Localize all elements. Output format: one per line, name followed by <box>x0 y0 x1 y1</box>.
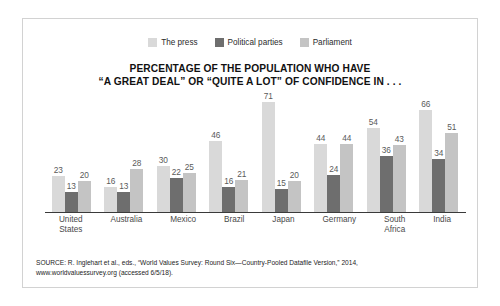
bar-group: 711520 <box>262 96 301 212</box>
bar[interactable] <box>445 133 458 212</box>
bar-slot: 24 <box>327 96 340 212</box>
bar[interactable] <box>65 192 78 212</box>
bar-slot: 44 <box>340 96 353 212</box>
bar-value-label: 16 <box>106 177 115 186</box>
bar-slot: 51 <box>445 96 458 212</box>
bar-slot: 44 <box>314 96 327 212</box>
bar-slot: 13 <box>117 96 130 212</box>
bar[interactable] <box>117 192 130 212</box>
legend-label-the-press: The press <box>161 38 197 47</box>
bar-group: 161328 <box>104 96 143 212</box>
bar-slot: 66 <box>419 96 432 212</box>
x-axis-category-label: Japan <box>272 215 294 235</box>
bar-slot: 43 <box>393 96 406 212</box>
bar-value-label: 21 <box>237 170 246 179</box>
bar[interactable] <box>235 180 248 212</box>
bar-group: 543643 <box>367 96 406 212</box>
x-axis-category-label-line: States <box>59 225 83 235</box>
bar-group: 663451 <box>419 96 458 212</box>
x-axis-category-label-line: Mexico <box>170 215 196 225</box>
bar-value-label: 36 <box>382 146 391 155</box>
x-axis-category-label-line: Africa <box>384 225 405 235</box>
bar-value-label: 25 <box>185 163 194 172</box>
bar-value-label: 13 <box>119 182 128 191</box>
bar-value-label: 20 <box>290 171 299 180</box>
bar[interactable] <box>432 159 445 212</box>
bar-slot: 13 <box>65 96 78 212</box>
bar-slot: 20 <box>288 96 301 212</box>
bar-value-label: 30 <box>159 156 168 165</box>
bar[interactable] <box>380 156 393 212</box>
legend-swatch-icon-political-parties <box>215 38 224 47</box>
bar-group: 231320 <box>52 96 91 212</box>
legend-item-political-parties: Political parties <box>215 38 283 47</box>
bar[interactable] <box>275 189 288 212</box>
bar[interactable] <box>419 110 432 212</box>
bar-value-label: 15 <box>277 179 286 188</box>
x-axis-category-label: SouthAfrica <box>384 215 405 235</box>
bar-value-label: 51 <box>447 123 456 132</box>
bar-value-label: 24 <box>329 165 338 174</box>
bar[interactable] <box>367 128 380 212</box>
bar[interactable] <box>183 173 196 212</box>
chart-title-line-1: PERCENTAGE OF THE POPULATION WHO HAVE <box>34 62 466 75</box>
bar[interactable] <box>78 181 91 212</box>
bar[interactable] <box>157 166 170 212</box>
bar-value-label: 54 <box>369 118 378 127</box>
chart-legend: The press Political parties Parliament <box>0 38 500 47</box>
bar-value-label: 46 <box>211 131 220 140</box>
legend-label-parliament: Parliament <box>313 38 352 47</box>
source-note-line-2: www.worldvaluessurvey.org (accessed 6/5/… <box>36 268 456 278</box>
bar[interactable] <box>222 187 235 212</box>
bar-value-label: 71 <box>264 92 273 101</box>
x-axis-category-label-line: South <box>384 215 405 225</box>
chart-title: PERCENTAGE OF THE POPULATION WHO HAVE “A… <box>34 62 466 88</box>
x-axis-category-labels: UnitedStatesAustraliaMexicoBrazilJapanGe… <box>45 215 465 235</box>
bar-group: 442444 <box>314 96 353 212</box>
x-axis-category-label-line: Brazil <box>224 215 244 225</box>
legend-swatch-icon-the-press <box>148 38 157 47</box>
x-axis-category-label-line: India <box>433 215 451 225</box>
bar-slot: 46 <box>209 96 222 212</box>
source-note-line-1: SOURCE: R. Inglehart et al., eds., “Worl… <box>36 258 456 268</box>
bar-slot: 54 <box>367 96 380 212</box>
x-axis-category-label: India <box>433 215 451 235</box>
bar-group: 302225 <box>157 96 196 212</box>
x-axis-category-label-line: Australia <box>110 215 142 225</box>
source-note: SOURCE: R. Inglehart et al., eds., “Worl… <box>36 258 456 277</box>
legend-item-the-press: The press <box>148 38 197 47</box>
bar[interactable] <box>262 102 275 212</box>
bar-slot: 21 <box>235 96 248 212</box>
bar-slot: 36 <box>380 96 393 212</box>
bar-slot: 23 <box>52 96 65 212</box>
x-axis-category-label: Mexico <box>170 215 196 235</box>
bar[interactable] <box>340 144 353 212</box>
bar-slot: 15 <box>275 96 288 212</box>
bar-slot: 16 <box>104 96 117 212</box>
bar[interactable] <box>327 175 340 212</box>
bar-slot: 34 <box>432 96 445 212</box>
bar[interactable] <box>104 187 117 212</box>
x-axis-category-label-line: Japan <box>272 215 294 225</box>
bar[interactable] <box>393 145 406 212</box>
bar[interactable] <box>288 181 301 212</box>
x-axis-category-label: Australia <box>110 215 142 235</box>
bar-value-label: 44 <box>316 134 325 143</box>
bar-value-label: 13 <box>67 182 76 191</box>
bar[interactable] <box>209 141 222 212</box>
bar[interactable] <box>314 144 327 212</box>
bar[interactable] <box>130 169 143 212</box>
x-axis-category-label-line: Germany <box>322 215 356 225</box>
bar-slot: 28 <box>130 96 143 212</box>
legend-item-parliament: Parliament <box>300 38 352 47</box>
bar-value-label: 66 <box>421 100 430 109</box>
x-axis-category-label: Brazil <box>224 215 244 235</box>
x-axis-line <box>45 212 466 213</box>
bar-slot: 30 <box>157 96 170 212</box>
bar[interactable] <box>52 176 65 212</box>
legend-label-political-parties: Political parties <box>228 38 283 47</box>
bar[interactable] <box>170 178 183 212</box>
bar-value-label: 20 <box>80 171 89 180</box>
chart-plot-area: 2313201613283022254616217115204424445436… <box>45 96 465 212</box>
bar-slot: 25 <box>183 96 196 212</box>
